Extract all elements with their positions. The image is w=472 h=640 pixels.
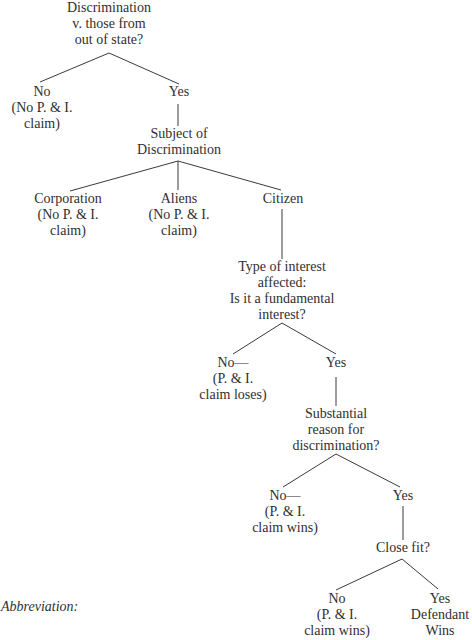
node-line: claim) [34,223,102,239]
node-line: Discrimination [67,0,151,16]
node-line: Yes [393,488,413,504]
edge-subject-corporation [70,161,178,191]
node-line: Yes [411,591,469,607]
node-line: (No P. & I. [34,207,102,223]
node-closefit-question: Close fit? [376,540,430,556]
node-line: Wins [411,623,469,639]
node-line: out of state? [67,32,151,48]
node-interest-question: Type of interest affected: Is it a funda… [230,259,335,323]
node-line: (No P. & I. [148,207,209,223]
node-line: Yes [169,84,189,100]
node-line: Defendant [411,607,469,623]
edge-substantial-no [283,454,336,487]
node-substantial-no: No— (P. & I. claim wins) [252,488,318,536]
node-corporation: Corporation (No P. & I. claim) [34,191,102,239]
node-line: reason for [292,422,379,438]
edge-interest-yes [282,323,336,354]
node-line: Discrimination [137,142,221,158]
node-root-question: Discrimination v. those from out of stat… [67,0,151,48]
node-line: (P. & I. [304,607,370,623]
node-line: Aliens [148,191,209,207]
node-line: claim) [148,223,209,239]
edge-interest-no [233,323,282,354]
node-line: claim loses) [199,387,266,403]
node-line: Close fit? [376,540,430,556]
node-interest-no: No— (P. & I. claim loses) [199,355,266,403]
edge-subject-citizen [178,161,281,190]
node-line: (P. & I. [199,371,266,387]
node-line: No— [252,488,318,504]
node-line: Yes [326,355,346,371]
edge-closefit-yes [402,559,438,589]
node-line: claim wins) [252,520,318,536]
node-closefit-no: No (P. & I. claim wins) [304,591,370,639]
node-line: affected: [230,275,335,291]
node-subject: Subject of Discrimination [137,126,221,158]
node-line: discrimination? [292,438,379,454]
node-line: Type of interest [230,259,335,275]
node-line: claim wins) [304,623,370,639]
node-root-no: No (No P. & I. claim) [11,84,72,132]
edge-substantial-yes [336,454,400,487]
node-line: v. those from [67,16,151,32]
abbreviation-heading: Abbreviation: [1,599,78,615]
node-line: Is it a fundamental [230,291,335,307]
node-line: interest? [230,307,335,323]
node-closefit-yes: Yes Defendant Wins [411,591,469,639]
node-line: Corporation [34,191,102,207]
node-line: No [304,591,370,607]
edge-closefit-no [336,559,402,590]
node-line: Substantial [292,406,379,422]
node-root-yes: Yes [169,84,189,100]
node-line: (No P. & I. [11,100,72,116]
node-substantial-question: Substantial reason for discrimination? [292,406,379,454]
edge-root-yes [109,53,179,84]
node-line: Subject of [137,126,221,142]
node-line: No [11,84,72,100]
node-substantial-yes: Yes [393,488,413,504]
node-line: No— [199,355,266,371]
edge-root-no [40,53,109,82]
node-citizen: Citizen [263,191,303,207]
node-line: Citizen [263,191,303,207]
node-line: (P. & I. [252,504,318,520]
node-interest-yes: Yes [326,355,346,371]
node-line: claim) [11,116,72,132]
node-aliens: Aliens (No P. & I. claim) [148,191,209,239]
